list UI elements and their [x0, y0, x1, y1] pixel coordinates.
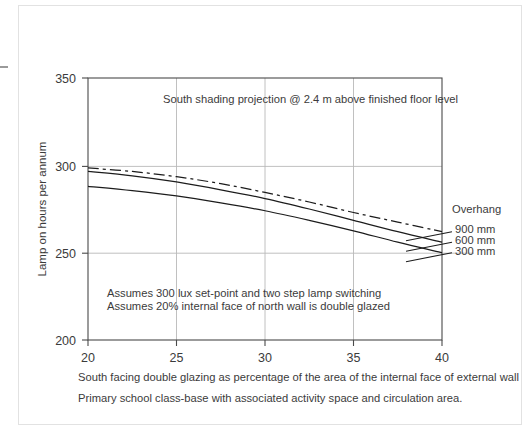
x-tick-label-20: 20 [81, 351, 95, 365]
legend-title: Overhang [452, 203, 501, 215]
y-tick-label-250: 250 [55, 247, 76, 261]
x-tick-label-25: 25 [170, 351, 184, 365]
note-line-2: Assumes 20% internal face of north wall … [107, 300, 390, 312]
x-tick-label-30: 30 [258, 351, 272, 365]
figure-page: 350 300 250 200 20 25 30 35 40 Lamp on h… [0, 0, 528, 431]
plot-title: South shading projection @ 2.4 m above f… [163, 93, 458, 105]
line-chart: 350 300 250 200 20 25 30 35 40 Lamp on h… [0, 0, 528, 431]
caption-line-2: Primary school class-base with associate… [78, 392, 462, 404]
y-axis-ticks [82, 78, 88, 340]
y-axis-title: Lamp on hours per annum [36, 142, 48, 277]
legend: Overhang 900 mm 600 mm 300 mm [452, 203, 501, 257]
note-line-1: Assumes 300 lux set-point and two step l… [107, 287, 381, 299]
legend-item-300mm: 300 mm [455, 245, 495, 257]
x-axis-ticks [88, 340, 442, 346]
leader-300mm [406, 253, 452, 262]
y-tick-label-300: 300 [55, 160, 76, 174]
y-tick-label-200: 200 [55, 334, 76, 348]
x-tick-label-35: 35 [347, 351, 361, 365]
x-tick-label-40: 40 [435, 351, 449, 365]
caption-line-1: South facing double glazing as percentag… [78, 371, 519, 383]
y-tick-label-350: 350 [55, 72, 76, 86]
legend-leader-lines [406, 232, 452, 262]
